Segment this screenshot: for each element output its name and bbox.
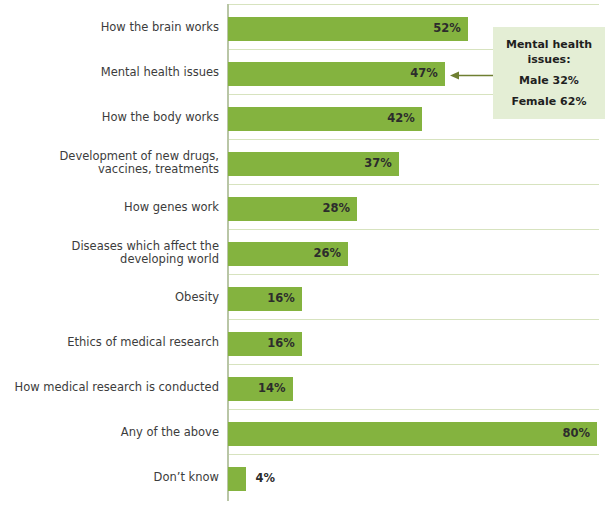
bar-row: How medical research is conducted 14% [0,377,607,401]
bar-row: Any of the above 80% [0,422,607,446]
bar [228,17,468,41]
bar-value-label: 47% [410,66,438,80]
annotation-callout: Mental health issues: Male 32% Female 62… [493,27,605,119]
bar-category-label: How the body works [0,111,219,124]
bar-value-label: 80% [562,426,590,440]
bar-category-label: How the brain works [0,21,219,34]
bar-value-label: 42% [387,111,415,125]
bar-value-label: 52% [433,21,461,35]
bar-row: Ethics of medical research 16% [0,332,607,356]
callout-arrow-icon [450,71,495,80]
gridline [227,274,599,275]
bar-row: Don’t know 4% [0,467,607,491]
bar-category-label: Development of new drugs, vaccines, trea… [0,150,219,176]
bar-category-label: How medical research is conducted [0,381,219,394]
callout-male-value: Male 32% [519,73,579,88]
bar-value-label: 16% [267,336,295,350]
bar-row: Obesity 16% [0,287,607,311]
bar-value-label: 26% [313,246,341,260]
gridline [227,4,599,5]
bar-category-label: Don’t know [0,471,219,484]
horizontal-bar-chart: How the brain works 52% Mental health is… [0,0,607,516]
bar-category-label: Obesity [0,291,219,304]
gridline [227,229,599,230]
gridline [227,454,599,455]
gridline [227,139,599,140]
bar-category-label-line2: developing world [0,253,219,266]
bar-row: Diseases which affect the developing wor… [0,242,607,266]
gridline [227,319,599,320]
bar-category-label: Ethics of medical research [0,336,219,349]
gridline [227,184,599,185]
callout-female-value: Female 62% [512,94,587,109]
bar [228,467,246,491]
bar-value-label: 4% [255,471,275,485]
bar-value-label: 37% [364,156,392,170]
bar-category-label: Diseases which affect the developing wor… [0,240,219,266]
bar-category-label: How genes work [0,201,219,214]
bar-row: How genes work 28% [0,197,607,221]
bar-value-label: 16% [267,291,295,305]
bar [228,422,597,446]
callout-title-line2: issues: [527,52,570,67]
callout-title-line1: Mental health [506,37,592,52]
bar-category-label: Mental health issues [0,66,219,79]
bar-value-label: 28% [323,201,351,215]
bar-category-label: Any of the above [0,426,219,439]
gridline [227,409,599,410]
bar-row: Development of new drugs, vaccines, trea… [0,152,607,176]
bar-category-label-line2: vaccines, treatments [0,163,219,176]
gridline [227,364,599,365]
bar-value-label: 14% [258,381,286,395]
